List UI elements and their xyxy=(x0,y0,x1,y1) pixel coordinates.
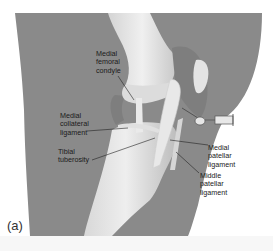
knee-anatomy-figure: Medial femoral condyle Medial collateral… xyxy=(0,0,273,251)
label-middle-patellar-ligament: Middle patellar ligament xyxy=(200,172,227,197)
panel-label: (a) xyxy=(7,218,23,233)
label-medial-collateral-ligament: Medial collateral ligament xyxy=(60,112,89,137)
anatomy-illustration xyxy=(0,0,273,251)
label-medial-femoral-condyle: Medial femoral condyle xyxy=(96,50,121,75)
label-tibial-tuberosity: Tibial tuberosity xyxy=(58,148,89,165)
label-medial-patellar-ligament: Medial patellar ligament xyxy=(208,144,235,169)
